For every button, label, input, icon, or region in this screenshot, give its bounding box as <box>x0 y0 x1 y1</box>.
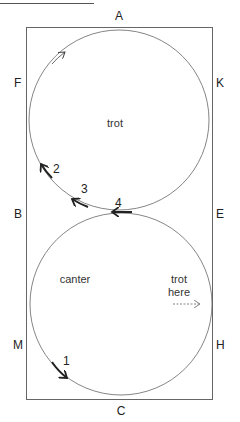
trot-here-line1: trot <box>171 273 187 285</box>
marker-m: M <box>13 338 23 352</box>
lower-circle-label: canter <box>60 273 91 285</box>
arena-boundary <box>27 28 213 400</box>
marker-h: H <box>216 338 225 352</box>
step-2-arrow-icon <box>41 164 52 178</box>
marker-b: B <box>14 207 22 221</box>
upper-circle-label: trot <box>107 117 123 129</box>
step-3-arrow-icon <box>72 199 88 207</box>
step-1-number: 1 <box>63 354 70 368</box>
marker-a: A <box>115 9 123 23</box>
marker-c: C <box>117 404 126 418</box>
step-3-number: 3 <box>81 182 88 196</box>
arena-diagram: A C F B M K E H trot canter trot here 1 … <box>0 0 240 422</box>
step-4-number: 4 <box>115 196 122 210</box>
marker-k: K <box>216 76 224 90</box>
trot-here-line2: here <box>168 286 190 298</box>
step-2-number: 2 <box>53 162 60 176</box>
marker-e: E <box>216 207 224 221</box>
marker-f: F <box>14 76 21 90</box>
